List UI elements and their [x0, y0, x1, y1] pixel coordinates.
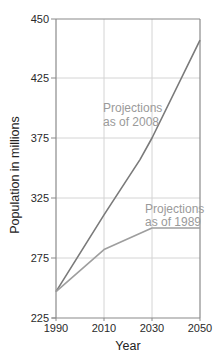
- series-label-2008-line2: as of 2008: [103, 115, 159, 129]
- y-tick-label: 425: [31, 72, 49, 84]
- y-axis-tick-labels: 450425375325275225: [31, 13, 49, 324]
- series-label-1989-line1: Projections: [145, 202, 204, 216]
- x-axis-title: Year: [115, 339, 140, 353]
- series-label-1989: Projections as of 1989: [145, 202, 204, 229]
- series-label-2008: Projections as of 2008: [103, 101, 162, 129]
- x-tick-label: 2030: [140, 322, 164, 334]
- y-tick-label: 375: [31, 132, 49, 144]
- x-tick-label: 1990: [44, 322, 68, 334]
- x-axis-tick-labels: 1990201020302050: [44, 322, 212, 334]
- y-tick-label: 325: [31, 192, 49, 204]
- y-tick-label: 275: [31, 252, 49, 264]
- x-tick-label: 2010: [92, 322, 116, 334]
- series-label-2008-line1: Projections: [103, 101, 162, 115]
- series-label-1989-line2: as of 1989: [145, 215, 201, 229]
- y-axis-title: Population in millions: [8, 116, 22, 233]
- y-tick-label: 450: [31, 13, 49, 25]
- population-line-chart: 450425375325275225 1990201020302050 Popu…: [0, 0, 223, 364]
- series-line-1: [56, 228, 200, 292]
- x-tick-label: 2050: [188, 322, 212, 334]
